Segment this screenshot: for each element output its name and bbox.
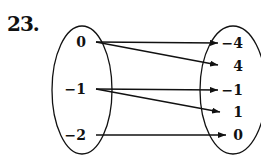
mapping-diagram: 0 −1 −2 −4 4 −1 1 0 <box>0 0 261 161</box>
mapping-arrow <box>96 89 220 112</box>
range-value: −4 <box>222 35 244 51</box>
range-value: −1 <box>222 82 243 98</box>
mapping-arrow <box>96 42 218 43</box>
domain-value: −1 <box>65 81 86 97</box>
range-value: 4 <box>233 58 243 74</box>
mapping-arrow <box>96 42 218 65</box>
range-value: 1 <box>233 104 243 120</box>
range-value: 0 <box>233 127 243 143</box>
domain-value: 0 <box>76 34 86 50</box>
domain-value: −2 <box>65 127 86 143</box>
